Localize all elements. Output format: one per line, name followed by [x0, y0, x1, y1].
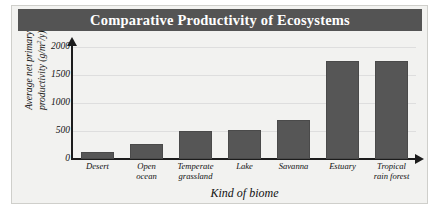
y-axis-arrow-icon — [67, 37, 77, 46]
bar[interactable] — [228, 130, 261, 159]
x-axis-tick-label-line: grassland — [179, 171, 213, 181]
chart-title: Comparative Productivity of Ecosystems — [90, 12, 350, 29]
x-axis-tick-label-line: Open — [137, 161, 156, 171]
x-axis-tick-label-line: Estuary — [329, 161, 356, 171]
gridline — [73, 75, 416, 76]
bar[interactable] — [326, 61, 359, 159]
x-axis-tick-label: Tropicalrain forest — [367, 162, 416, 181]
chart-figure: Comparative Productivity of Ecosystems A… — [11, 5, 428, 204]
y-axis-tick-label: 0 — [28, 154, 70, 164]
x-axis-tick-label: Desert — [73, 162, 122, 172]
gridline — [73, 103, 416, 104]
x-axis-tick-label-line: Tropical — [377, 161, 406, 171]
y-axis-tick-label: 1000 — [28, 98, 70, 108]
plot-area — [73, 47, 416, 159]
y-axis-tick-labels: 0500100015002000 — [24, 6, 70, 205]
bar[interactable] — [81, 152, 114, 159]
x-axis-tick-label-line: rain forest — [374, 171, 410, 181]
bar[interactable] — [375, 61, 408, 159]
y-axis-tick-label: 1500 — [28, 70, 70, 80]
x-axis-tick-label: Temperategrassland — [171, 162, 220, 181]
x-axis-tick-label-line: ocean — [136, 171, 157, 181]
x-axis-tick-label: Estuary — [318, 162, 367, 172]
bar[interactable] — [130, 144, 163, 159]
x-axis-tick-label: Savanna — [269, 162, 318, 172]
y-axis-tick-label: 500 — [28, 126, 70, 136]
x-axis-tick-label-line: Lake — [236, 161, 253, 171]
x-axis-tick-label: Openocean — [122, 162, 171, 181]
bar[interactable] — [277, 120, 310, 159]
y-axis-tick-label: 2000 — [28, 42, 70, 52]
bar[interactable] — [179, 131, 212, 159]
chart-title-banner: Comparative Productivity of Ecosystems — [18, 9, 422, 31]
gridline — [73, 47, 416, 48]
x-axis-tick-label-line: Temperate — [178, 161, 214, 171]
x-axis-tick-label: Lake — [220, 162, 269, 172]
x-axis-tick-label-line: Savanna — [279, 161, 309, 171]
x-axis-arrow-icon — [415, 154, 424, 164]
x-axis-tick-label-line: Desert — [86, 161, 109, 171]
x-axis-title: Kind of biome — [73, 186, 416, 201]
